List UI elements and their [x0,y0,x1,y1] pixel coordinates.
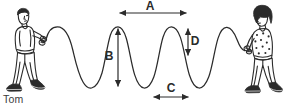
tom-trouser-crease-right [30,63,34,81]
tom-shirt-fold-2 [30,30,31,46]
person-girl [244,5,283,92]
dimension-b-label: B [105,49,114,63]
person-tom [7,8,47,91]
girl-shoe-back [245,86,260,93]
person-name-tom: Tom [3,94,23,105]
tom-shoe-back [7,84,22,91]
rope-wave [46,27,245,88]
girl-top-dots [254,32,270,54]
diagram-canvas: A B C D [0,0,284,110]
dimension-b: B [105,29,118,87]
tom-head [18,12,29,24]
wave-diagram-figure: A B C D [0,0,284,110]
tom-shirt-fold-1 [20,31,21,46]
wave-curve [46,27,245,88]
dimension-a-label: A [146,0,155,13]
dimension-c-label: C [167,81,176,95]
girl-trouser-crease-right [268,66,272,83]
dimension-d-label: D [191,34,200,48]
dimension-a: A [120,0,187,13]
dimension-c: C [154,81,189,97]
girl-top-hem [255,55,272,57]
dimension-d: D [188,29,200,56]
tom-face-detail [24,16,25,19]
tom-shirt-hem [17,49,34,51]
